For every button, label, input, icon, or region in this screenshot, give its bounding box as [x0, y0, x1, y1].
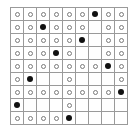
board-cell[interactable] [50, 99, 63, 112]
board-cell[interactable] [102, 86, 115, 99]
board-cell[interactable] [24, 60, 37, 73]
board-cell[interactable] [115, 34, 128, 47]
board-cell[interactable] [102, 73, 115, 86]
board-cell[interactable] [115, 73, 128, 86]
board-cell[interactable] [37, 8, 50, 21]
board-cell[interactable] [11, 86, 24, 99]
board-cell[interactable] [63, 8, 76, 21]
board-cell[interactable] [115, 99, 128, 112]
empty-circle-icon [54, 90, 59, 95]
board-cell[interactable] [24, 34, 37, 47]
board-cell[interactable] [115, 60, 128, 73]
board-cell[interactable] [89, 60, 102, 73]
board-cell[interactable] [102, 34, 115, 47]
board-cell[interactable] [115, 112, 128, 125]
board-cell[interactable] [63, 99, 76, 112]
board-cell[interactable] [89, 86, 102, 99]
board-cell[interactable] [11, 21, 24, 34]
empty-circle-icon [67, 12, 72, 17]
board-cell[interactable] [102, 60, 115, 73]
board-cell[interactable] [76, 8, 89, 21]
filled-dot-icon [40, 24, 46, 30]
empty-circle-icon [119, 51, 124, 56]
board-cell[interactable] [50, 34, 63, 47]
board-cell[interactable] [102, 47, 115, 60]
board-cell[interactable] [76, 47, 89, 60]
empty-circle-icon [106, 25, 111, 30]
board-cell[interactable] [37, 47, 50, 60]
board-cell[interactable] [24, 8, 37, 21]
board-cell[interactable] [89, 99, 102, 112]
board-cell[interactable] [24, 73, 37, 86]
board-cell[interactable] [11, 73, 24, 86]
board-cell[interactable] [24, 86, 37, 99]
board-cell[interactable] [50, 60, 63, 73]
board-cell[interactable] [89, 112, 102, 125]
board-cell[interactable] [102, 21, 115, 34]
board-cell[interactable] [37, 73, 50, 86]
empty-circle-icon [106, 90, 111, 95]
board-cell[interactable] [89, 73, 102, 86]
board-cell[interactable] [76, 112, 89, 125]
empty-circle-icon [67, 90, 72, 95]
empty-circle-icon [28, 51, 33, 56]
board-cell[interactable] [11, 8, 24, 21]
board-cell[interactable] [24, 21, 37, 34]
board-cell[interactable] [63, 34, 76, 47]
board-cell[interactable] [115, 86, 128, 99]
filled-dot-icon [66, 115, 72, 121]
board-cell[interactable] [102, 112, 115, 125]
board-cell[interactable] [50, 47, 63, 60]
board-cell[interactable] [115, 21, 128, 34]
board-cell[interactable] [63, 73, 76, 86]
board-cell[interactable] [89, 21, 102, 34]
empty-circle-icon [15, 51, 20, 56]
empty-circle-icon [93, 64, 98, 69]
empty-circle-icon [28, 90, 33, 95]
board-cell[interactable] [76, 86, 89, 99]
board-cell[interactable] [50, 112, 63, 125]
board-cell[interactable] [50, 8, 63, 21]
board-cell[interactable] [76, 99, 89, 112]
board-cell[interactable] [24, 112, 37, 125]
board-cell[interactable] [102, 8, 115, 21]
board-cell[interactable] [37, 21, 50, 34]
board-cell[interactable] [63, 112, 76, 125]
board-cell[interactable] [63, 60, 76, 73]
empty-circle-icon [106, 38, 111, 43]
board-cell[interactable] [50, 21, 63, 34]
empty-circle-icon [41, 64, 46, 69]
board-cell[interactable] [37, 112, 50, 125]
board-cell[interactable] [37, 99, 50, 112]
filled-dot-icon [118, 89, 124, 95]
board-cell[interactable] [37, 86, 50, 99]
board-cell[interactable] [89, 8, 102, 21]
board-cell[interactable] [63, 47, 76, 60]
board-cell[interactable] [50, 73, 63, 86]
board-cell[interactable] [76, 21, 89, 34]
board-cell[interactable] [115, 47, 128, 60]
board-cell[interactable] [76, 34, 89, 47]
board-cell[interactable] [50, 86, 63, 99]
board-cell[interactable] [76, 73, 89, 86]
board-cell[interactable] [102, 99, 115, 112]
empty-circle-icon [28, 25, 33, 30]
board-cell[interactable] [11, 47, 24, 60]
board-cell[interactable] [11, 60, 24, 73]
board-cell[interactable] [76, 60, 89, 73]
board-cell[interactable] [11, 34, 24, 47]
board-cell[interactable] [63, 21, 76, 34]
board-cell[interactable] [89, 47, 102, 60]
filled-dot-icon [27, 76, 33, 82]
board-cell[interactable] [11, 99, 24, 112]
board-cell[interactable] [24, 47, 37, 60]
empty-circle-icon [80, 64, 85, 69]
board-cell[interactable] [115, 8, 128, 21]
board-cell[interactable] [24, 99, 37, 112]
board-cell[interactable] [89, 34, 102, 47]
board-cell[interactable] [37, 34, 50, 47]
empty-circle-icon [54, 64, 59, 69]
board-cell[interactable] [37, 60, 50, 73]
board-cell[interactable] [63, 86, 76, 99]
board-cell[interactable] [11, 112, 24, 125]
